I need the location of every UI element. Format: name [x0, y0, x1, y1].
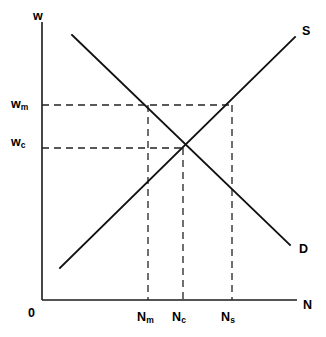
demand-curve	[72, 35, 290, 245]
y-tick-wc-sub: c	[21, 140, 26, 150]
x-tick-label-nm: Nm	[137, 311, 154, 324]
y-tick-wm-base: w	[11, 97, 21, 111]
y-tick-wm-sub: m	[21, 102, 29, 112]
demand-curve-label: D	[299, 243, 308, 256]
x-tick-ns-sub: s	[230, 315, 235, 325]
origin-label: 0	[28, 307, 35, 320]
x-tick-nm-sub: m	[146, 315, 154, 325]
supply-curve	[60, 37, 295, 268]
supply-curve-label: S	[302, 25, 310, 38]
x-tick-nm-base: N	[137, 310, 146, 324]
y-tick-label-wm: wm	[11, 98, 28, 111]
x-tick-label-ns: Ns	[221, 311, 235, 324]
x-axis-label: N	[303, 299, 312, 312]
diagram-canvas	[0, 0, 326, 337]
supply-demand-figure: w N 0 wm wc Nm Nc Ns S D	[0, 0, 326, 337]
y-tick-label-wc: wc	[11, 136, 26, 149]
y-tick-wc-base: w	[11, 135, 21, 149]
x-tick-label-nc: Nc	[172, 311, 186, 324]
y-axis-label: w	[33, 10, 43, 23]
x-tick-ns-base: N	[221, 310, 230, 324]
x-tick-nc-sub: c	[181, 315, 186, 325]
x-tick-nc-base: N	[172, 310, 181, 324]
